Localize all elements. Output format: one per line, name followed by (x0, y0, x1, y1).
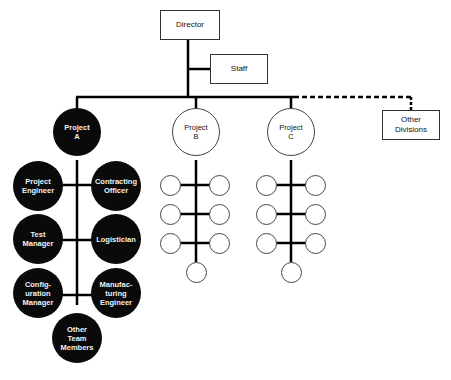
project-b-team-node (160, 175, 181, 196)
team-node-other-team-members: Other Team Members (52, 313, 102, 363)
staff-box: Staff (210, 54, 268, 84)
project-c-node: Project C (267, 108, 315, 156)
team-node-manufacturing-engineer: Manufac- turing Engineer (91, 268, 141, 318)
project-c-team-node (256, 175, 277, 196)
team-node-contracting-officer: Contracting Officer (91, 161, 141, 211)
project-b-team-node (209, 204, 230, 225)
project-b-team-node (209, 175, 230, 196)
team-node-configuration-manager: Config- uration Manager (13, 268, 63, 318)
other-divisions-box: Other Divisions (382, 110, 440, 140)
project-c-team-node (305, 204, 326, 225)
team-node-test-manager: Test Manager (13, 214, 63, 264)
project-b-team-node (209, 233, 230, 254)
project-b-node: Project B (172, 108, 220, 156)
project-b-team-node (160, 233, 181, 254)
project-c-team-node (281, 262, 302, 283)
team-node-logistician: Logistician (91, 214, 141, 264)
project-b-team-node (160, 204, 181, 225)
project-c-team-node (256, 204, 277, 225)
project-c-team-node (305, 233, 326, 254)
project-c-team-node (305, 175, 326, 196)
team-node-project-engineer: Project Engineer (13, 161, 63, 211)
project-c-team-node (256, 233, 277, 254)
project-a-node: Project A (53, 108, 101, 156)
director-box: Director (160, 10, 220, 40)
project-b-team-node (186, 262, 207, 283)
